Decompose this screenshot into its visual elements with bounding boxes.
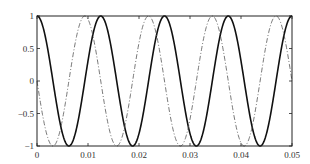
y-tick-label: 0 <box>30 76 35 86</box>
x-tick-label: 0.03 <box>182 150 198 160</box>
series-dash-dot-line <box>37 16 292 146</box>
line-chart: 00.010.020.030.040.05 10.50−0.5−1 <box>0 0 310 164</box>
y-tick-label: −1 <box>24 141 34 151</box>
y-axis-tick-labels: 10.50−0.5−1 <box>18 11 35 151</box>
y-tick-label: 1 <box>30 11 35 21</box>
x-axis-tick-labels: 00.010.020.030.040.05 <box>35 150 301 160</box>
x-tick-label: 0.04 <box>233 150 249 160</box>
x-tick-label: 0 <box>35 150 40 160</box>
x-tick-label: 0.05 <box>284 150 300 160</box>
y-tick-label: 0.5 <box>23 44 35 54</box>
x-tick-label: 0.02 <box>131 150 147 160</box>
y-tick-label: −0.5 <box>18 109 35 119</box>
series-layer <box>37 16 292 146</box>
x-tick-label: 0.01 <box>80 150 96 160</box>
